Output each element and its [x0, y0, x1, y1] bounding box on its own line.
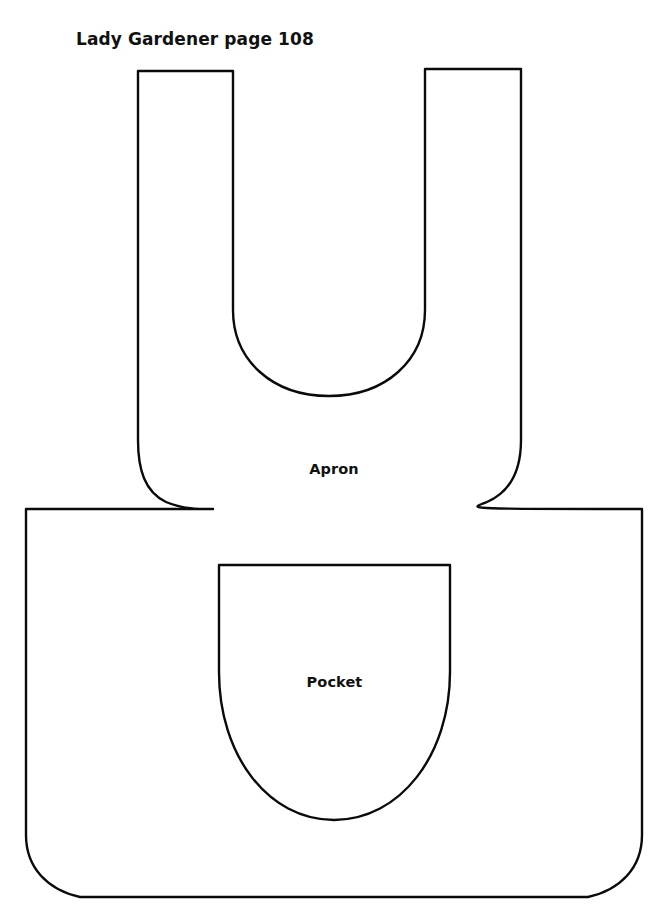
pocket-piece-label: Pocket [219, 674, 450, 690]
pattern-sheet: Lady Gardener page 108 Apron Pocket [0, 0, 668, 911]
apron-pattern-drawing [0, 0, 668, 911]
apron-outline-path [26, 69, 642, 897]
apron-piece-label: Apron [0, 461, 668, 477]
page-title: Lady Gardener page 108 [76, 29, 314, 49]
